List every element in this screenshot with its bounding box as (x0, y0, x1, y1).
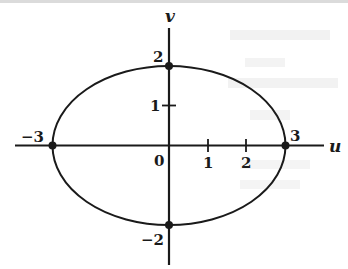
bleed-through-text (0, 0, 348, 189)
point-right-intercept (282, 142, 290, 150)
ellipse-diagram: v u −3 3 2 −2 0 1 2 1 (0, 0, 348, 269)
label-bottom-intercept: −2 (141, 231, 164, 249)
point-top-intercept (165, 62, 173, 70)
u-tick-label-2: 2 (241, 154, 251, 172)
v-axis-label: v (165, 6, 176, 26)
u-tick-label-1: 1 (203, 154, 213, 172)
label-top-intercept: 2 (153, 48, 163, 66)
label-right-intercept: 3 (290, 127, 300, 145)
origin-label: 0 (154, 152, 164, 170)
u-axis-label: u (329, 136, 341, 156)
v-tick-label-1: 1 (150, 97, 160, 115)
point-bottom-intercept (165, 221, 173, 229)
label-left-intercept: −3 (21, 128, 44, 146)
point-left-intercept (49, 142, 57, 150)
